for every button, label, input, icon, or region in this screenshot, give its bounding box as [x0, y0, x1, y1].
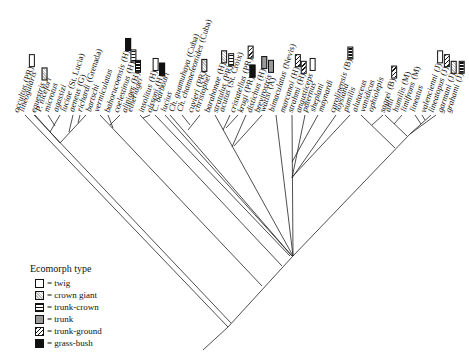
trunk-crown-ecomorph-icon [347, 46, 353, 59]
trunk-ground-ecomorph-icon [391, 66, 397, 79]
legend-item-trunk-crown: = trunk-crown [35, 301, 102, 313]
legend-item-grass-bush: = grass-bush [35, 337, 102, 349]
legend-title: Ecomorph type [30, 263, 102, 274]
legend-item-crown-giant: = crown giant [35, 289, 102, 301]
grass-bush-swatch-icon [35, 339, 44, 348]
trunk-crown-ecomorph-icon [135, 60, 141, 73]
legend-item-trunk-ground: = trunk-ground [35, 325, 102, 337]
twig-ecomorph-icon [29, 54, 35, 67]
legend-item-trunk: = trunk [35, 313, 102, 325]
crown-giant-swatch-icon [35, 291, 44, 300]
trunk-ground-ecomorph-icon [248, 45, 254, 58]
trunk-crown-swatch-icon [35, 303, 44, 312]
trunk-crown-ecomorph-icon [459, 61, 465, 74]
locality: (B) [384, 77, 397, 91]
twig-ecomorph-icon [310, 58, 316, 71]
legend: Ecomorph type = twig = crown giant = tru… [30, 263, 102, 349]
trunk-ground-swatch-icon [35, 327, 44, 336]
trunk-swatch-icon [35, 315, 44, 324]
legend-item-twig: = twig [35, 277, 102, 289]
twig-swatch-icon [35, 279, 44, 288]
trunk-ecomorph-icon [268, 59, 274, 72]
